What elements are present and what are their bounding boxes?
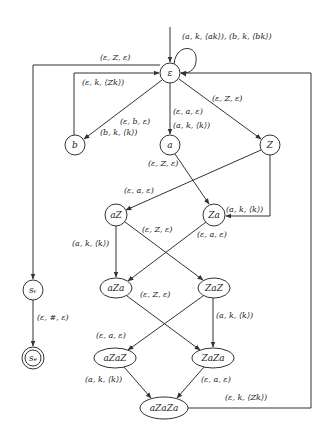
edge-label-1: (ε, Z, ε) <box>100 53 130 62</box>
node-labels: ε b a Z aZ Za aZa ZaZ sᵥ sₑ aZaZ ZaZa aZ… <box>29 68 274 413</box>
edge-label-14: (ε, Z, ε) <box>140 290 170 299</box>
edge-label-7: (ε, Z, ε) <box>212 94 242 103</box>
node-label-aZa: aZa <box>108 283 125 293</box>
edge-label-2: (ε, k, ⟨Zk⟩) <box>82 78 124 87</box>
edge-label-9: (ε, a, ε) <box>124 186 154 195</box>
node-label-Za: Za <box>207 210 220 220</box>
edge-label-20: (ε, k, ⟨Zk⟩) <box>225 393 267 402</box>
edge-label-17: (ε, #, ε) <box>37 313 69 322</box>
node-label-ZaZa: ZaZa <box>200 353 224 363</box>
edge-labels: (a, k, ⟨ak⟩), (b, k, ⟨bk⟩) (ε, Z, ε) (ε,… <box>37 32 272 402</box>
node-label-se: sₑ <box>29 353 38 363</box>
automaton-diagram: ε b a Z aZ Za aZa ZaZ sᵥ sₑ aZaZ ZaZa aZ… <box>0 0 328 444</box>
edge-label-5: (ε, a, ε) <box>173 107 203 116</box>
edge-label-3: (ε, b, ε) <box>120 117 150 126</box>
node-label-sv: sᵥ <box>29 285 37 295</box>
node-label-ZaZ: ZaZ <box>204 283 224 293</box>
edge-label-6: (a, k, ⟨k⟩) <box>173 121 210 130</box>
edge-aZa-ZaZa <box>127 296 200 350</box>
edge-label-13: (a, k, ⟨k⟩) <box>72 239 109 248</box>
edge-a-Za <box>175 154 209 204</box>
node-label-aZ: aZ <box>110 210 122 220</box>
edge-label-19: (ε, a, ε) <box>201 375 231 384</box>
edge-Z-aZ <box>126 150 261 210</box>
edge-label-4: (b, k, ⟨k⟩) <box>100 128 137 137</box>
edge-label-10: (a, k, ⟨k⟩) <box>226 205 263 214</box>
node-label-a: a <box>167 140 172 150</box>
edge-ZaZ-aZaZ <box>128 296 203 350</box>
edge-label-15: (ε, a, ε) <box>96 331 126 340</box>
edges <box>33 27 311 408</box>
edge-aZaZ-aZaZa <box>124 367 151 398</box>
node-label-eps: ε <box>168 68 173 78</box>
edge-ZaZa-aZaZa <box>177 367 204 398</box>
edge-label-8: (ε, Z, ε) <box>148 159 178 168</box>
node-label-b: b <box>72 140 78 150</box>
edge-label-18: (a, k, ⟨k⟩) <box>85 375 122 384</box>
node-label-aZaZa: aZaZa <box>150 403 179 413</box>
edge-label-11: (ε, Z, ε) <box>142 225 172 234</box>
node-label-Z: Z <box>266 140 274 150</box>
edge-label-12: (ε, a, ε) <box>197 230 227 239</box>
edge-label-16: (a, k, ⟨k⟩) <box>216 311 253 320</box>
edge-label-0: (a, k, ⟨ak⟩), (b, k, ⟨bk⟩) <box>182 32 272 41</box>
node-label-aZaZ: aZaZ <box>103 353 127 363</box>
